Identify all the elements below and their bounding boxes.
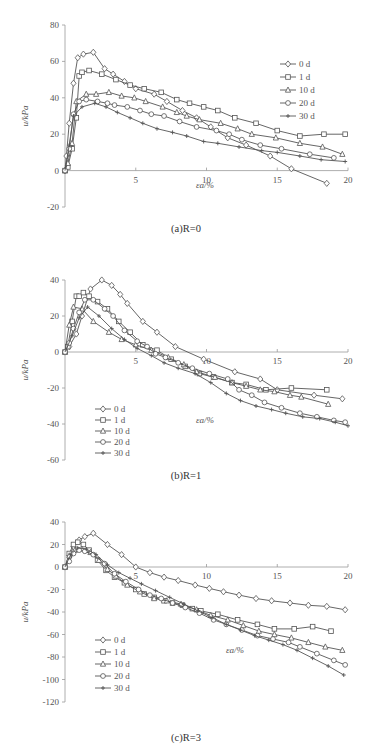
diamond-marker	[207, 585, 212, 591]
square-marker	[343, 132, 348, 137]
plus-marker	[342, 673, 346, 677]
circle-marker	[207, 371, 212, 376]
chart-caption: (a)R=0	[171, 223, 201, 235]
diamond-marker	[82, 534, 87, 540]
plus-marker	[343, 160, 347, 164]
legend-item: 0 d	[95, 404, 126, 414]
legend-label: 0 d	[114, 404, 126, 414]
circle-marker	[148, 593, 153, 598]
legend-label: 1 d	[299, 72, 311, 82]
circle-marker	[286, 640, 291, 645]
square-marker	[254, 121, 259, 126]
circle-marker	[112, 571, 117, 576]
circle-marker	[262, 400, 267, 405]
y-tick-label: 20	[50, 540, 60, 550]
diamond-marker	[306, 602, 311, 608]
x-tick-label: 20	[344, 571, 354, 581]
circle-marker	[163, 355, 168, 360]
plus-marker	[216, 141, 220, 145]
legend-item: 0 d	[95, 635, 126, 645]
circle-marker	[123, 579, 128, 584]
legend-item: 1 d	[280, 72, 311, 82]
x-tick-label: 15	[273, 571, 283, 581]
square-marker	[298, 134, 303, 139]
chart-caption: (c)R=3	[171, 732, 201, 744]
diamond-marker	[268, 153, 273, 159]
diamond-marker	[324, 603, 329, 609]
diamond-marker	[253, 595, 258, 601]
y-tick-label: -60	[47, 455, 59, 465]
square-marker	[329, 629, 334, 634]
legend-item: 10 d	[95, 426, 130, 436]
diamond-marker	[221, 589, 226, 595]
y-axis-label: u/kPa	[20, 601, 30, 622]
circle-marker	[343, 420, 348, 425]
plus-marker	[139, 582, 143, 586]
circle-marker	[279, 405, 284, 410]
legend-label: 20 d	[299, 98, 315, 108]
square-marker	[272, 627, 277, 632]
y-tick-label: -20	[47, 585, 59, 595]
legend-label: 20 d	[114, 671, 130, 681]
square-marker	[310, 624, 315, 629]
plus-marker	[141, 121, 145, 125]
circle-marker	[297, 411, 302, 416]
plus-marker	[171, 130, 175, 134]
legend: 0 d1 d10 d20 d30 d	[95, 404, 130, 458]
plus-marker	[176, 366, 180, 370]
circle-marker	[125, 105, 130, 110]
plus-marker	[149, 354, 153, 358]
y-tick-label: -40	[47, 607, 59, 617]
plus-marker	[326, 664, 330, 668]
square-marker	[174, 97, 179, 102]
y-tick-label: -20	[47, 202, 59, 212]
plus-marker	[168, 595, 172, 599]
chart-caption: (b)R=1	[171, 470, 201, 482]
circle-marker	[91, 297, 96, 302]
triangle-marker	[106, 329, 111, 334]
chart-r3: -120-100-80-60-40-20020405101520u/kPaεa/…	[0, 485, 373, 755]
circle-marker	[225, 377, 230, 382]
legend-label: 0 d	[299, 59, 311, 69]
square-marker	[216, 612, 221, 617]
x-axis-label: εa/%	[196, 415, 214, 425]
circle-marker	[82, 297, 87, 302]
diamond-marker	[67, 120, 72, 126]
square-marker	[216, 108, 221, 113]
plus-marker	[298, 154, 302, 158]
legend-label: 10 d	[299, 85, 315, 95]
diamond-marker	[285, 61, 290, 67]
y-tick-label: 40	[50, 275, 60, 285]
y-tick-label: -80	[47, 652, 59, 662]
diamond-marker	[71, 80, 76, 86]
y-axis-label: u/kPa	[20, 359, 30, 380]
legend-label: 0 d	[114, 635, 126, 645]
circle-marker	[122, 328, 127, 333]
legend-label: 1 d	[114, 647, 126, 657]
triangle-marker	[106, 89, 111, 94]
square-marker	[286, 75, 291, 80]
diamond-marker	[119, 552, 124, 558]
legend-item: 1 d	[95, 415, 126, 425]
diamond-marker	[74, 331, 79, 337]
circle-marker	[239, 137, 244, 142]
circle-marker	[214, 128, 219, 133]
square-marker	[235, 618, 240, 623]
square-marker	[264, 388, 269, 393]
plus-marker	[254, 404, 258, 408]
legend: 0 d1 d10 d20 d30 d	[280, 59, 315, 121]
diamond-marker	[152, 91, 157, 97]
diamond-marker	[147, 570, 152, 576]
x-tick-label: 5	[134, 571, 139, 581]
y-tick-label: -20	[47, 383, 59, 393]
diamond-marker	[287, 600, 292, 606]
diamond-marker	[99, 277, 104, 283]
diamond-marker	[193, 582, 198, 588]
square-marker	[159, 90, 164, 95]
square-marker	[255, 622, 260, 627]
square-marker	[101, 418, 106, 423]
circle-marker	[145, 344, 150, 349]
legend-item: 20 d	[280, 98, 315, 108]
diamond-marker	[88, 286, 93, 292]
circle-marker	[279, 146, 284, 151]
